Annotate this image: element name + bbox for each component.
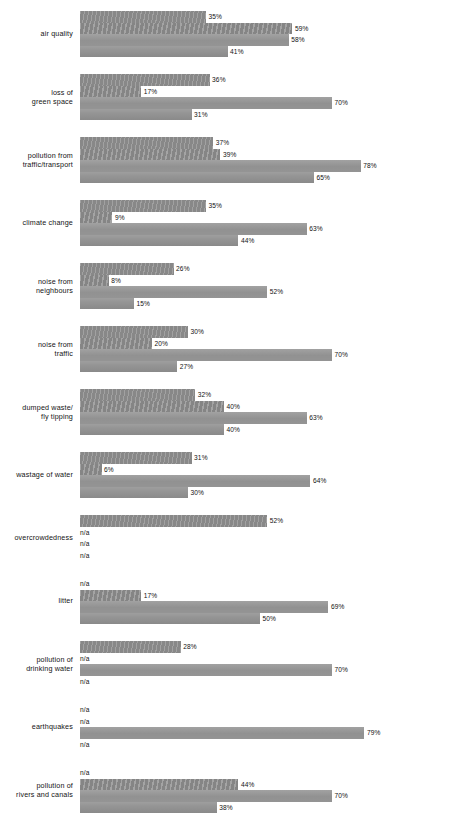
category-label: pollution from traffic/transport (0, 151, 80, 169)
bar-row: 26% (80, 263, 460, 275)
bar-value-label: 39% (220, 149, 236, 161)
bar (80, 11, 206, 23)
bar-group: noise from neighbours26%8%52%15% (0, 260, 460, 312)
bar-value-label: 64% (310, 475, 326, 487)
bar (80, 86, 141, 98)
bar-value-label: 30% (188, 487, 204, 499)
bar-na-label: n/a (80, 653, 89, 665)
bar-value-label: 17% (141, 590, 157, 602)
bar-value-label: 31% (192, 452, 208, 464)
category-label: noise from neighbours (0, 277, 80, 295)
bar-stack: n/a44%70%38% (80, 766, 460, 814)
bar-na-label: n/a (80, 527, 89, 539)
bar-group: pollution from traffic/transport37%39%78… (0, 134, 460, 186)
bar (80, 97, 332, 109)
bar-value-label: 8% (109, 275, 121, 287)
bar-value-label: 69% (328, 601, 344, 613)
bar-row: 59% (80, 23, 460, 35)
bar (80, 790, 332, 802)
bar-value-label: 17% (141, 86, 157, 98)
bar (80, 200, 206, 212)
bar (80, 46, 228, 58)
bar-row: 70% (80, 349, 460, 361)
bar-value-label: 20% (152, 338, 168, 350)
bar-value-label: 30% (188, 326, 204, 338)
bar-row: 17% (80, 590, 460, 602)
bar-group: pollution of drinking water28%n/a70%n/a (0, 638, 460, 690)
category-label: noise from traffic (0, 340, 80, 358)
bar-stack: 30%20%70%27% (80, 325, 460, 373)
bar-value-label: 6% (102, 464, 114, 476)
bar (80, 464, 102, 476)
bar (80, 235, 238, 247)
bar (80, 590, 141, 602)
bar-row: 35% (80, 11, 460, 23)
bar-row: 70% (80, 97, 460, 109)
bar-value-label: 38% (217, 802, 233, 814)
bar-row: 31% (80, 452, 460, 464)
bar-stack: 52%n/an/an/a (80, 514, 460, 562)
bar-row: n/a (80, 716, 460, 728)
bar (80, 160, 361, 172)
bar-value-label: 63% (307, 223, 323, 235)
bar-group: overcrowdedness52%n/an/an/a (0, 512, 460, 564)
bar (80, 338, 152, 350)
bar-stack: 35%59%58%41% (80, 10, 460, 58)
bar-row: n/a (80, 550, 460, 562)
bar-row: 70% (80, 790, 460, 802)
bar-value-label: 70% (332, 664, 348, 676)
bar-value-label: 40% (224, 401, 240, 413)
bar-row: 30% (80, 487, 460, 499)
bar-na-label: n/a (80, 676, 89, 688)
bar-na-label: n/a (80, 716, 89, 728)
bar-value-label: 58% (289, 34, 305, 46)
bar-stack: 37%39%78%65% (80, 136, 460, 184)
bar-row: n/a (80, 767, 460, 779)
bar (80, 601, 328, 613)
bar-row: n/a (80, 739, 460, 751)
bar-value-label: 78% (361, 160, 377, 172)
bar (80, 361, 177, 373)
bar-value-label: 9% (112, 212, 124, 224)
bar (80, 475, 310, 487)
bar-na-label: n/a (80, 739, 89, 751)
bar-row: 79% (80, 727, 460, 739)
bar (80, 779, 238, 791)
category-label: dumped waste/ fly tipping (0, 403, 80, 421)
bar (80, 515, 267, 527)
bar-row: 17% (80, 86, 460, 98)
bar-row: 36% (80, 74, 460, 86)
grouped-bar-chart: air quality35%59%58%41%loss of green spa… (0, 0, 460, 831)
bar-row: n/a (80, 538, 460, 550)
bar-group: earthquakesn/an/a79%n/a (0, 701, 460, 753)
category-label: litter (0, 596, 80, 605)
bar (80, 641, 181, 653)
bar (80, 452, 192, 464)
bar (80, 802, 217, 814)
bar-row: 39% (80, 149, 460, 161)
bar (80, 389, 195, 401)
bar-stack: 32%40%63%40% (80, 388, 460, 436)
bar-row: n/a (80, 527, 460, 539)
bar (80, 263, 174, 275)
bar (80, 74, 210, 86)
category-label: pollution of drinking water (0, 655, 80, 673)
bar (80, 664, 332, 676)
bar-value-label: 52% (267, 515, 283, 527)
bar (80, 412, 307, 424)
bar-row: 15% (80, 298, 460, 310)
bar-stack: 26%8%52%15% (80, 262, 460, 310)
bar-row: 20% (80, 338, 460, 350)
bar-row: n/a (80, 704, 460, 716)
bar-value-label: 41% (228, 46, 244, 58)
bar-group: littern/a17%69%50% (0, 575, 460, 627)
bar (80, 613, 260, 625)
bar-row: n/a (80, 653, 460, 665)
bar-row: 9% (80, 212, 460, 224)
bar-row: 52% (80, 286, 460, 298)
bar-row: 50% (80, 613, 460, 625)
bar (80, 223, 307, 235)
bar-row: 32% (80, 389, 460, 401)
bar-row: 40% (80, 424, 460, 436)
bar-na-label: n/a (80, 550, 89, 562)
